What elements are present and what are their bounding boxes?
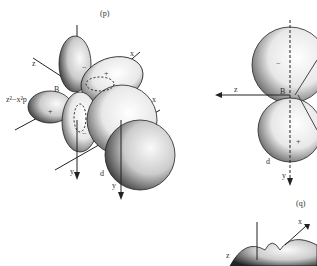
panel-q-orbital (230, 222, 317, 266)
panel-p-label: (p) (100, 10, 109, 18)
axis-x-label: x (130, 50, 134, 58)
right-axis-y-label: y (282, 172, 286, 180)
axis-y2-label: y (112, 182, 116, 190)
axis-z-label: z (32, 60, 36, 68)
panel-q-label: (q) (296, 200, 305, 208)
orbital-diagram (0, 0, 317, 266)
sign-plus: + (104, 70, 109, 78)
axis-y-label: y (70, 168, 74, 176)
sub-d-label: d (100, 170, 104, 178)
sign-minus-bottom: − (82, 130, 87, 138)
right-sub-d-label: d (266, 158, 270, 166)
right-sign-plus: + (296, 138, 301, 146)
q-axis-x-label: x (298, 218, 302, 226)
panel-p-orbital (15, 25, 175, 200)
origin-b-label: B (54, 86, 59, 94)
orbital-label: z²−x²p (6, 96, 27, 104)
sign-minus: − (82, 64, 87, 72)
q-axis-z-label: z (226, 252, 230, 260)
right-origin-b-label: B (280, 88, 285, 96)
sign-plus-left: + (48, 108, 53, 116)
right-axis-z-label: z (234, 86, 238, 94)
right-sign-minus: − (276, 60, 281, 68)
axis-x2-label: x (152, 96, 156, 104)
